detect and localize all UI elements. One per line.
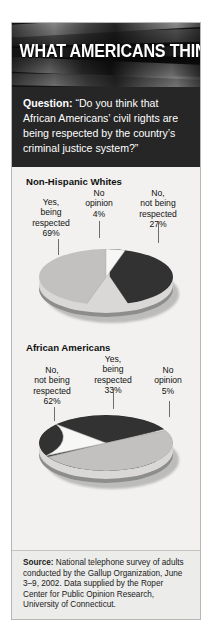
question-label: Question: (23, 97, 72, 109)
label-yes: Yes, being respected 69% (20, 197, 82, 239)
pie-chart-1 (12, 249, 200, 327)
question-block: Question: “Do you think that African Ame… (12, 87, 200, 167)
label-no: No, not being respected 62% (18, 365, 86, 407)
label-yes-pct: 69% (20, 228, 82, 238)
label-no-opinion: No opinion 4% (75, 188, 123, 219)
leader-line-no-opinion (99, 221, 100, 238)
label-yes-text: Yes, being respected (32, 197, 70, 228)
source-label: Source: (23, 558, 53, 567)
label-no-pct: 62% (18, 396, 86, 406)
chart-african-americans: African Americans No, not being respecte… (12, 333, 200, 493)
infographic-panel: WHAT AMERICANS THINK Question: “Do you t… (11, 22, 201, 620)
header-banner: WHAT AMERICANS THINK (12, 23, 200, 87)
chart-title: Non-Hispanic Whites (12, 167, 200, 187)
label-no-text: No, not being respected (139, 188, 177, 219)
leader-line-no (158, 221, 159, 243)
chart-title: African Americans (12, 333, 200, 353)
pie-top-face (39, 249, 173, 305)
leader-line-yes (113, 389, 114, 409)
label-no-opinion-pct: 5% (145, 386, 191, 396)
label-no-opinion-text: No opinion (85, 188, 113, 208)
label-no-text: No, not being respected (33, 365, 71, 396)
pie-chart-2 (12, 415, 200, 493)
chart-non-hispanic-whites: Non-Hispanic Whites Yes, being respected… (12, 167, 200, 327)
pie-top-face (39, 415, 173, 471)
source-footnote: Source: National telephone survey of adu… (12, 550, 200, 619)
chart-labels: Yes, being respected 69% No opinion 4% N… (12, 187, 200, 249)
label-no-opinion: No opinion 5% (145, 365, 191, 396)
label-yes-text: Yes, being respected (94, 354, 132, 385)
label-no-opinion-text: No opinion (154, 365, 182, 385)
label-no-opinion-pct: 4% (75, 209, 123, 219)
chart-labels: No, not being respected 62% Yes, being r… (12, 353, 200, 415)
page-title: WHAT AMERICANS THINK (20, 41, 193, 62)
